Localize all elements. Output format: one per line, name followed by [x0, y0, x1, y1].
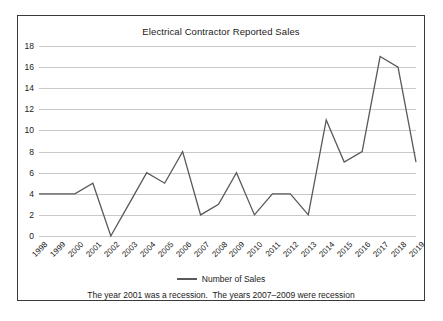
legend-line-swatch: [177, 278, 197, 280]
chart-legend: Number of Sales: [18, 274, 424, 284]
x-tick-label-2015: 2015: [336, 240, 355, 259]
x-tick-label-1999: 1999: [48, 240, 67, 259]
x-tick-label-2006: 2006: [174, 240, 193, 259]
x-tick-label-2013: 2013: [300, 240, 319, 259]
x-tick-label-2007: 2007: [192, 240, 211, 259]
series-line-number-of-sales: [39, 46, 416, 236]
y-tick-label-6: 6: [29, 168, 34, 178]
series-polyline: [39, 57, 416, 236]
y-tick-label-2: 2: [29, 210, 34, 220]
x-tick-label-2000: 2000: [66, 240, 85, 259]
x-tick-label-2009: 2009: [228, 240, 247, 259]
chart-caption: The year 2001 was a recession. The years…: [18, 290, 424, 300]
x-tick-label-2019: 2019: [407, 240, 426, 259]
x-tick-label-2014: 2014: [318, 240, 337, 259]
y-tick-label-12: 12: [25, 104, 34, 114]
chart-title: Electrical Contractor Reported Sales: [18, 26, 424, 37]
y-tick-label-8: 8: [29, 147, 34, 157]
x-tick-label-2012: 2012: [282, 240, 301, 259]
y-tick-label-0: 0: [29, 231, 34, 241]
x-tick-label-2001: 2001: [84, 240, 103, 259]
x-tick-label-2011: 2011: [264, 240, 283, 259]
legend-label: Number of Sales: [202, 274, 265, 284]
x-tick-label-1998: 1998: [30, 240, 49, 259]
chart-frame: Electrical Contractor Reported Sales 024…: [17, 15, 425, 301]
x-tick-label-2018: 2018: [389, 240, 408, 259]
y-tick-label-14: 14: [25, 83, 34, 93]
x-tick-label-2017: 2017: [372, 240, 391, 259]
y-tick-label-16: 16: [25, 62, 34, 72]
x-tick-label-2008: 2008: [210, 240, 229, 259]
x-tick-label-2002: 2002: [102, 240, 121, 259]
y-tick-label-18: 18: [25, 41, 34, 51]
x-tick-label-2004: 2004: [138, 240, 157, 259]
y-tick-label-10: 10: [25, 125, 34, 135]
x-tick-label-2010: 2010: [246, 240, 265, 259]
x-tick-label-2005: 2005: [156, 240, 175, 259]
x-axis-tick-labels: 1998199920002001200220032004200520062007…: [39, 236, 416, 276]
y-tick-label-4: 4: [29, 189, 34, 199]
x-tick-label-2016: 2016: [354, 240, 373, 259]
plot-area: 024681012141618: [39, 46, 416, 236]
x-tick-label-2003: 2003: [120, 240, 139, 259]
